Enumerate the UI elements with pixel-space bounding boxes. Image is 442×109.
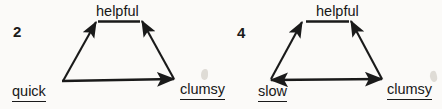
paper-smudge [201,69,208,80]
top-label-rule [0,0,221,109]
diagram-item-4: 4 helpful slow clumsy [221,0,442,109]
top-label-rule [221,0,442,109]
diagram-item-2: 2 helpful quick clumsy [0,0,221,109]
worksheet-page: 2 helpful quick clumsy 4 [0,0,442,109]
